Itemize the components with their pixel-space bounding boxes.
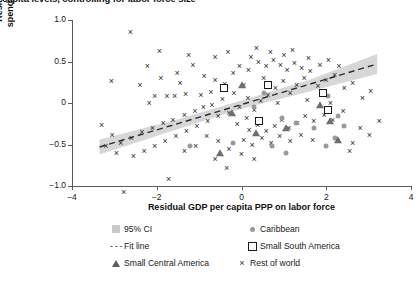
data-point-rest-of-world: × [368,87,373,96]
data-point-rest-of-world: × [235,119,240,128]
data-point-small-south-america [324,106,332,114]
data-point-rest-of-world: × [194,122,199,131]
y-tick-label: −0.5 [34,140,66,148]
data-point-small-south-america [319,89,327,97]
data-point-rest-of-world: × [231,89,236,98]
data-point-rest-of-world: × [298,130,303,139]
data-point-rest-of-world: × [192,107,197,116]
data-point-caribbean [261,91,266,96]
circle-marker-icon [244,227,260,232]
chart-legend: 95% CI Caribbean - - - Fit line Small So… [108,224,408,275]
legend-label: Fit line [124,241,149,251]
data-point-rest-of-world: × [292,59,297,68]
data-point-caribbean [336,114,341,119]
data-point-rest-of-world: × [326,55,331,64]
y-tick-label: −1.0 [34,181,66,189]
data-point-rest-of-world: × [230,69,235,78]
data-point-rest-of-world: × [183,89,188,98]
data-point-rest-of-world: × [245,94,250,103]
data-point-rest-of-world: × [157,46,162,55]
data-point-rest-of-world: × [216,112,221,121]
data-point-rest-of-world: × [341,84,346,93]
data-point-rest-of-world: × [198,90,203,99]
data-point-rest-of-world: × [145,62,150,71]
data-point-rest-of-world: × [164,91,169,100]
data-point-rest-of-world: × [129,133,134,142]
data-point-rest-of-world: × [239,150,244,159]
legend-label: Small Central America [124,258,209,268]
figure-scatter-plot: capita levels, controlling for labor for… [0,0,417,281]
data-point-small-south-america [220,84,228,92]
data-point-caribbean [187,144,192,149]
data-point-rest-of-world: × [99,120,104,129]
y-tick-mark [68,145,72,146]
data-point-caribbean [312,125,317,130]
data-point-caribbean [324,144,329,149]
legend-label: 95% CI [124,224,152,234]
data-point-rest-of-world: × [121,187,126,196]
data-point-rest-of-world: × [216,137,221,146]
data-point-caribbean [342,124,347,129]
data-point-rest-of-world: × [184,127,189,136]
data-point-rest-of-world: × [273,84,278,93]
x-tick-label: −4 [57,192,87,202]
data-point-caribbean [283,150,288,155]
y-axis-title: Residual government spending on labor fo… [0,0,16,36]
data-point-rest-of-world: × [254,44,259,53]
data-point-rest-of-world: × [186,50,191,59]
data-point-small-south-america [264,81,272,89]
data-point-rest-of-world: × [208,88,213,97]
data-point-rest-of-world: × [226,145,231,154]
data-point-caribbean [293,120,298,125]
data-point-rest-of-world: × [103,142,108,151]
data-point-rest-of-world: × [237,103,242,112]
legend-row: 95% CI Caribbean [108,224,408,241]
data-point-rest-of-world: × [241,135,246,144]
data-point-caribbean [279,115,284,120]
data-point-rest-of-world: × [244,113,249,122]
data-point-rest-of-world: × [294,80,299,89]
chart-title-clipped: capita levels, controlling for labor for… [0,0,417,5]
y-tick-mark [68,20,72,21]
data-point-rest-of-world: × [110,130,115,139]
open-square-marker-icon [244,242,260,251]
dashed-line-icon: - - - [108,242,124,251]
data-point-rest-of-world: × [341,107,346,116]
data-point-rest-of-world: × [258,97,263,106]
data-point-rest-of-world: × [220,94,225,103]
data-point-rest-of-world: × [310,135,315,144]
data-point-rest-of-world: × [288,137,293,146]
data-point-small-central-america [216,149,224,156]
data-point-rest-of-world: × [367,130,372,139]
data-point-rest-of-world: × [166,175,171,184]
data-point-small-central-america [326,117,334,124]
data-point-small-central-america [282,124,290,131]
data-point-rest-of-world: × [213,52,218,61]
ci-band-swatch-icon [108,225,124,233]
data-point-caribbean [252,105,257,110]
data-point-rest-of-world: × [336,62,341,71]
legend-item-95-ci: 95% CI [108,224,152,234]
data-point-small-central-america [252,129,260,136]
x-tick-label: 0 [227,192,257,202]
data-point-rest-of-world: × [275,99,280,108]
data-point-rest-of-world: × [190,60,195,69]
legend-item-caribbean: Caribbean [244,224,300,234]
legend-label: Caribbean [260,224,300,234]
data-point-rest-of-world: × [246,65,251,74]
data-point-rest-of-world: × [139,128,144,137]
legend-item-small-south-america: Small South America [244,241,340,251]
data-point-caribbean [231,140,236,145]
data-point-rest-of-world: × [246,125,251,134]
data-point-rest-of-world: × [173,132,178,141]
data-point-rest-of-world: × [193,142,198,151]
data-point-rest-of-world: × [302,112,307,121]
data-point-rest-of-world: × [118,138,123,147]
data-point-rest-of-world: × [332,70,337,79]
data-point-rest-of-world: × [271,55,276,64]
plot-area: ××××××××××××××××××××××××××××××××××××××××… [72,20,365,186]
data-point-small-central-america [334,136,342,143]
data-point-rest-of-world: × [160,118,165,127]
legend-row: Small Central America × Rest of world [108,258,408,275]
data-point-small-central-america [238,81,246,88]
